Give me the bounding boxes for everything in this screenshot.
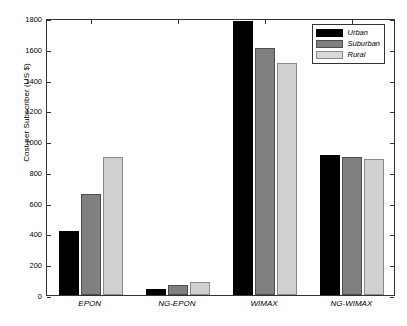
chart-legend: UrbanSuburbanRural (312, 24, 385, 64)
legend-item-suburban: Suburban (316, 39, 380, 49)
x-tick-label-epon: EPON (78, 299, 101, 308)
legend-swatch-icon (316, 51, 343, 59)
bar-ng-epon-suburban (168, 285, 188, 295)
legend-label: Suburban (347, 40, 380, 48)
bar-wimax-suburban (255, 48, 275, 295)
bar-ng-wimax-suburban (342, 157, 362, 295)
y-tick-label: 1200 (0, 107, 42, 116)
legend-item-rural: Rural (316, 50, 380, 60)
y-tick-label: 400 (0, 230, 42, 239)
y-tick-label: 1400 (0, 76, 42, 85)
bar-wimax-rural (277, 63, 297, 295)
figure-canvas: Cost per Subscriber (US $) 0200400600800… (0, 0, 407, 326)
bar-epon-suburban (81, 194, 101, 295)
x-tick-label-ng-epon: NG-EPON (158, 299, 195, 308)
bar-ng-epon-rural (190, 282, 210, 295)
bar-ng-epon-urban (146, 289, 166, 295)
bar-wimax-urban (233, 21, 253, 295)
y-tick-label: 1800 (0, 15, 42, 24)
y-tick-label: 800 (0, 168, 42, 177)
bar-ng-wimax-urban (320, 155, 340, 295)
plot-area: UrbanSuburbanRural (46, 19, 395, 296)
legend-label: Urban (347, 29, 367, 37)
legend-item-urban: Urban (316, 28, 380, 38)
x-tick-label-wimax: WIMAX (251, 299, 278, 308)
y-tick-mark-right (390, 297, 394, 298)
legend-label: Rural (347, 51, 365, 59)
y-tick-label: 600 (0, 199, 42, 208)
bar-ng-wimax-rural (364, 159, 384, 295)
y-tick-mark (47, 297, 51, 298)
y-tick-label: 1000 (0, 138, 42, 147)
x-tick-label-ng-wimax: NG-WIMAX (330, 299, 372, 308)
legend-swatch-icon (316, 29, 343, 37)
bar-epon-rural (103, 157, 123, 296)
y-tick-label: 1600 (0, 45, 42, 54)
legend-swatch-icon (316, 40, 343, 48)
y-tick-label: 200 (0, 261, 42, 270)
bar-epon-urban (59, 231, 79, 295)
y-tick-label: 0 (0, 292, 42, 301)
